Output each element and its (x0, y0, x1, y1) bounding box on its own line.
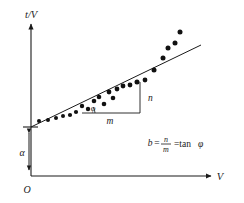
data-point-group (37, 30, 183, 124)
formula-phi: φ (198, 139, 203, 149)
data-point (161, 56, 166, 61)
data-point (152, 68, 157, 73)
data-point (115, 87, 120, 92)
data-point (68, 113, 72, 117)
data-point (37, 119, 41, 123)
data-point (135, 80, 140, 85)
rise-label-n: n (148, 93, 153, 103)
run-label-m: m (107, 116, 114, 126)
y-axis-label: t/V (25, 9, 39, 20)
data-point (178, 30, 183, 35)
data-point (111, 96, 116, 101)
data-point (166, 46, 171, 51)
data-point (74, 110, 78, 114)
data-point (97, 95, 102, 100)
data-point (143, 78, 148, 83)
data-point (54, 116, 58, 120)
formula-denominator-m: m (163, 145, 169, 154)
formula-b: b (148, 138, 153, 148)
figure-container: t/V V O α n m φ b = n m =tan φ (0, 0, 244, 203)
formula-equals-1: = (154, 138, 159, 148)
x-axis-label: V (217, 171, 225, 182)
scatter-plot-svg: t/V V O α n m φ b = n m =tan φ (0, 0, 244, 203)
data-point (86, 107, 90, 111)
intercept-alpha-label: α (19, 147, 25, 158)
data-point (61, 114, 65, 118)
data-point (46, 118, 50, 122)
angle-label-phi: φ (91, 103, 96, 113)
data-point (128, 83, 133, 88)
origin-label: O (23, 184, 30, 195)
formula-numerator-n: n (164, 135, 168, 144)
formula-tan: =tan (174, 139, 191, 149)
best-fit-line (31, 45, 201, 127)
slope-formula: b = n m =tan φ (148, 135, 204, 154)
data-point (80, 104, 84, 108)
data-point (121, 84, 126, 89)
data-point (173, 41, 178, 46)
data-point (102, 102, 107, 107)
data-point (107, 90, 112, 95)
